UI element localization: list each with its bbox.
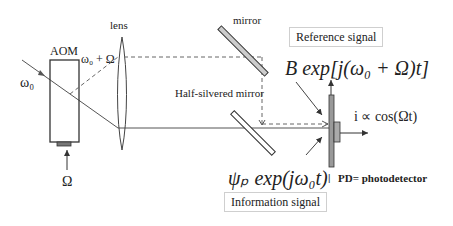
Omega-input-label: Ω (62, 175, 72, 189)
aom-transducer (57, 142, 71, 146)
pd-marker: | (328, 172, 330, 183)
lens-shape (118, 37, 127, 150)
information-formula: ψₚ exp(jω₀t) (228, 168, 328, 188)
information-signal-arrow-icon (306, 137, 322, 155)
omega0-plus-Omega-label: ω₀ + Ω (81, 53, 115, 65)
reference-formula: B exp[j(ω₀ + Ω)t] (285, 58, 429, 78)
aom-label: AOM (50, 45, 78, 57)
output-current-label: i ∝ cos(Ωt) (354, 110, 417, 124)
photodetector (329, 95, 334, 167)
reference-signal-arrow-icon (296, 82, 322, 115)
input-arrow-icon (38, 70, 45, 76)
aom-box (50, 60, 79, 142)
pd-definition-label: PD= photodetector (338, 173, 427, 184)
lens-label: lens (110, 20, 128, 31)
mirror-label: mirror (233, 15, 261, 26)
mirror (218, 26, 268, 76)
half-silvered-mirror (231, 111, 276, 156)
half-silvered-mirror-label: Half-silvered mirror (175, 88, 264, 99)
photodetector-element (334, 122, 340, 142)
reference-signal-box: Reference signal (289, 27, 383, 47)
omega0-label: ω₀ (20, 76, 34, 90)
information-signal-box: Information signal (224, 192, 327, 212)
